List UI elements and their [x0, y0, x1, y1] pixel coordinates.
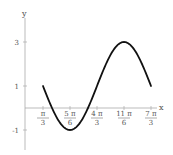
chart-plot: x y π35 π64 π311 π67 π3 31-1: [0, 0, 173, 155]
x-tick-denominator: 3: [41, 119, 45, 127]
y-tick-label: -1: [12, 127, 19, 135]
x-tick-numerator: 5 π: [64, 110, 76, 118]
x-tick-numerator: 11 π: [116, 110, 132, 118]
x-tick-denominator: 3: [149, 119, 153, 127]
y-tick-label: 3: [15, 39, 19, 47]
y-axis-label: y: [21, 9, 27, 18]
x-axis-label: x: [159, 103, 164, 112]
x-tick-numerator: π: [41, 110, 46, 118]
x-tick-denominator: 6: [68, 119, 73, 127]
y-tick-label: 1: [15, 83, 19, 91]
x-tick-denominator: 3: [95, 119, 99, 127]
x-tick-numerator: 4 π: [91, 110, 103, 118]
x-tick-numerator: 7 π: [145, 110, 157, 118]
x-ticks: π35 π64 π311 π67 π3: [37, 106, 157, 127]
x-tick-denominator: 6: [122, 119, 127, 127]
axes: x y: [21, 9, 164, 150]
